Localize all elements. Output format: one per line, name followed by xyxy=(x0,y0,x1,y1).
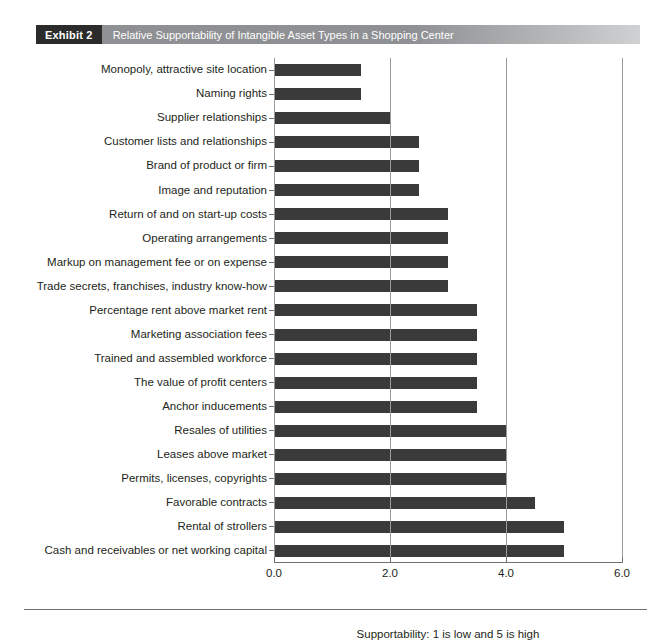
x-tick-label: 0.0 xyxy=(266,567,282,579)
bar-row: Leases above market xyxy=(274,443,622,467)
category-label: Resales of utilities xyxy=(174,425,267,437)
footer-rule xyxy=(24,609,647,610)
bar xyxy=(274,377,477,389)
bar-row: Percentage rent above market rent xyxy=(274,298,622,322)
category-label: Naming rights xyxy=(196,88,267,100)
bar xyxy=(274,64,361,76)
x-axis-caption: Supportability: 1 is low and 5 is high xyxy=(274,628,622,640)
bar xyxy=(274,184,419,196)
bar-row: Trained and assembled workforce xyxy=(274,347,622,371)
bar-row: The value of profit centers xyxy=(274,371,622,395)
bar xyxy=(274,521,564,533)
category-label: Trained and assembled workforce xyxy=(94,353,267,365)
x-tick-6.0 xyxy=(622,557,623,563)
gridline-6.0 xyxy=(622,58,623,563)
category-label: Cash and receivables or net working capi… xyxy=(45,545,267,557)
bar-row: Favorable contracts xyxy=(274,491,622,515)
bar-row: Return of and on start-up costs xyxy=(274,202,622,226)
x-tick-label: 2.0 xyxy=(382,567,398,579)
bar-row: Cash and receivables or net working capi… xyxy=(274,539,622,563)
gridline-4.0 xyxy=(506,58,507,563)
category-label: Markup on management fee or on expense xyxy=(47,257,267,269)
x-axis-line xyxy=(274,562,622,563)
bar-row: Monopoly, attractive site location xyxy=(274,58,622,82)
bar-row: Operating arrangements xyxy=(274,226,622,250)
x-tick-0.0 xyxy=(274,557,275,563)
gridline-0.0 xyxy=(274,58,275,563)
bar xyxy=(274,497,535,509)
bar-row: Rental of strollers xyxy=(274,515,622,539)
bar xyxy=(274,88,361,100)
bar xyxy=(274,329,477,341)
exhibit-header: Exhibit 2 Relative Supportability of Int… xyxy=(36,25,640,44)
bar xyxy=(274,160,419,172)
bar-row: Permits, licenses, copyrights xyxy=(274,467,622,491)
x-tick-2.0 xyxy=(390,557,391,563)
category-label: Trade secrets, franchises, industry know… xyxy=(37,281,267,293)
x-tick-label: 4.0 xyxy=(498,567,514,579)
category-label: Marketing association fees xyxy=(131,329,267,341)
bar xyxy=(274,112,390,124)
bar-row: Markup on management fee or on expense xyxy=(274,250,622,274)
exhibit-tag: Exhibit 2 xyxy=(36,25,102,44)
category-label: Image and reputation xyxy=(158,185,267,197)
bar-row: Anchor inducements xyxy=(274,395,622,419)
bar xyxy=(274,208,448,220)
bar-row: Resales of utilities xyxy=(274,419,622,443)
bar-rows: Monopoly, attractive site locationNaming… xyxy=(274,58,622,563)
bar xyxy=(274,256,448,268)
bar-row: Supplier relationships xyxy=(274,106,622,130)
category-label: Brand of product or firm xyxy=(146,160,267,172)
category-label: Return of and on start-up costs xyxy=(109,209,267,221)
bar xyxy=(274,304,477,316)
category-label: The value of profit centers xyxy=(134,377,267,389)
category-label: Operating arrangements xyxy=(142,233,267,245)
bar xyxy=(274,280,448,292)
bar-row: Image and reputation xyxy=(274,178,622,202)
category-label: Permits, licenses, copyrights xyxy=(121,473,267,485)
chart-area: Monopoly, attractive site locationNaming… xyxy=(36,52,640,580)
gridline-2.0 xyxy=(390,58,391,563)
bar-row: Customer lists and relationships xyxy=(274,130,622,154)
category-label: Supplier relationships xyxy=(157,112,267,124)
category-label: Leases above market xyxy=(157,449,267,461)
bar-row: Brand of product or firm xyxy=(274,154,622,178)
category-label: Favorable contracts xyxy=(166,497,267,509)
bar xyxy=(274,401,477,413)
bar-row: Marketing association fees xyxy=(274,323,622,347)
category-label: Rental of strollers xyxy=(178,521,267,533)
bar-chart-plot: Monopoly, attractive site locationNaming… xyxy=(274,58,622,563)
category-label: Percentage rent above market rent xyxy=(89,305,267,317)
category-label: Customer lists and relationships xyxy=(104,136,267,148)
category-label: Monopoly, attractive site location xyxy=(101,64,267,76)
bar-row: Naming rights xyxy=(274,82,622,106)
bar-row: Trade secrets, franchises, industry know… xyxy=(274,274,622,298)
exhibit-title: Relative Supportability of Intangible As… xyxy=(102,25,454,44)
bar xyxy=(274,136,419,148)
bar xyxy=(274,232,448,244)
category-label: Anchor inducements xyxy=(162,401,267,413)
bar xyxy=(274,545,564,557)
x-tick-4.0 xyxy=(506,557,507,563)
bar xyxy=(274,353,477,365)
x-tick-label: 6.0 xyxy=(614,567,630,579)
